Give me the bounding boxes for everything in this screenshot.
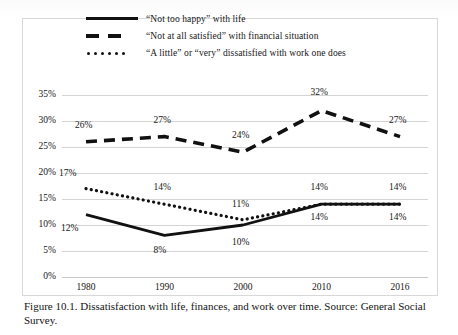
data-label: 8% — [154, 245, 167, 255]
data-label: 27% — [389, 115, 406, 125]
y-axis-tick-label: 10% — [22, 219, 56, 229]
y-axis-tick-label: 20% — [22, 167, 56, 177]
data-label: 11% — [232, 199, 249, 209]
gridline — [62, 95, 428, 96]
data-label: 14% — [154, 182, 171, 192]
legend-item-not-at-all-satisfied: “Not at all satisfied” with financial si… — [86, 27, 416, 44]
gridline — [62, 225, 428, 226]
chart-legend: “Not too happy” with life “Not at all sa… — [86, 10, 416, 61]
gridline — [62, 277, 428, 278]
data-label: 32% — [311, 87, 328, 97]
data-label: 17% — [59, 168, 76, 178]
gridline — [62, 121, 428, 122]
data-label: 12% — [61, 223, 78, 233]
data-label: 24% — [232, 130, 249, 140]
legend-key-solid-line-icon — [86, 13, 142, 24]
y-axis-tick-label: 25% — [22, 141, 56, 151]
data-label: 14% — [389, 182, 406, 192]
data-label: 27% — [154, 115, 171, 125]
x-axis-tick-label: 1980 — [56, 282, 116, 292]
y-axis-tick-label: 0% — [22, 271, 56, 281]
y-axis-tick-label: 5% — [22, 245, 56, 255]
legend-label-dissatisfied-work: “A little” or “very” dissatisfied with w… — [146, 48, 346, 58]
y-axis-tick-label: 30% — [22, 115, 56, 125]
gridline — [62, 173, 428, 174]
data-label: 10% — [232, 237, 249, 247]
figure-caption: Figure 10.1. Dissatisfaction with life, … — [24, 300, 444, 327]
data-label: 14% — [311, 182, 328, 192]
legend-key-dashed-line-icon — [86, 30, 142, 41]
data-label: 14% — [311, 212, 328, 222]
legend-key-dotted-line-icon — [86, 47, 142, 58]
data-label: 14% — [389, 212, 406, 222]
x-axis-tick-label: 1990 — [135, 282, 195, 292]
x-axis-tick-label: 2010 — [292, 282, 352, 292]
x-axis-tick-label: 2016 — [370, 282, 430, 292]
legend-item-not-too-happy: “Not too happy” with life — [86, 10, 416, 27]
legend-label-not-at-all-satisfied: “Not at all satisfied” with financial si… — [146, 31, 319, 41]
gridline — [62, 147, 428, 148]
legend-label-not-too-happy: “Not too happy” with life — [146, 14, 246, 24]
x-axis-tick-label: 2000 — [213, 282, 273, 292]
y-axis-tick-label: 35% — [22, 89, 56, 99]
data-label: 26% — [75, 120, 92, 130]
y-axis-tick-label: 15% — [22, 193, 56, 203]
gridline — [62, 251, 428, 252]
legend-item-dissatisfied-work: “A little” or “very” dissatisfied with w… — [86, 44, 416, 61]
